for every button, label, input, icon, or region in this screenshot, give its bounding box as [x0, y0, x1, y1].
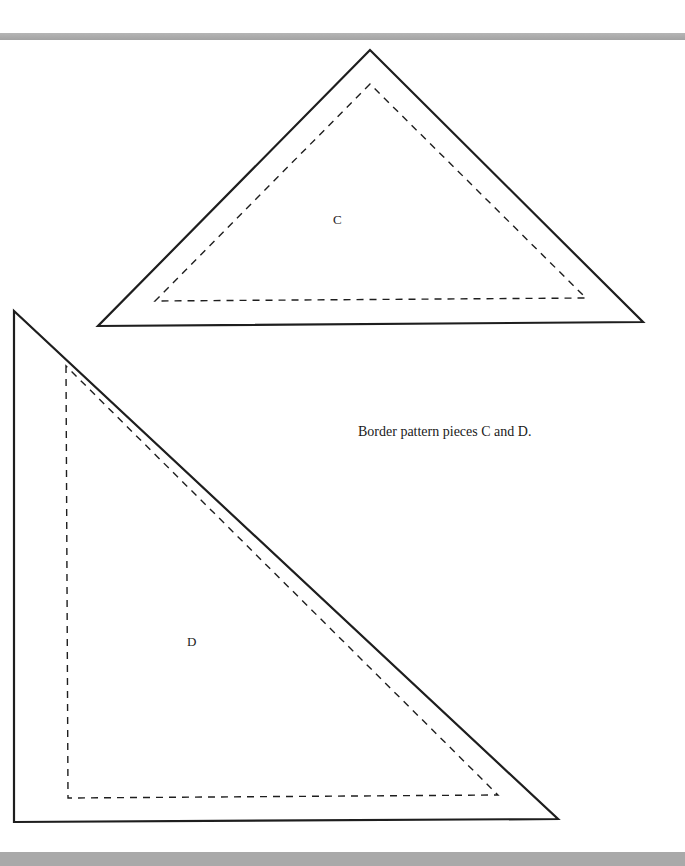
piece-d-label: D	[187, 634, 196, 650]
piece-d-cut-line	[14, 311, 558, 822]
piece-d	[14, 311, 558, 822]
piece-c-seam-line	[155, 84, 586, 301]
piece-c-cut-line	[98, 50, 643, 326]
bottom-gray-bar	[0, 852, 685, 866]
figure-caption: Border pattern pieces C and D.	[358, 424, 531, 440]
piece-c	[98, 50, 643, 326]
piece-c-label: C	[333, 212, 342, 228]
pattern-diagram	[0, 0, 685, 866]
